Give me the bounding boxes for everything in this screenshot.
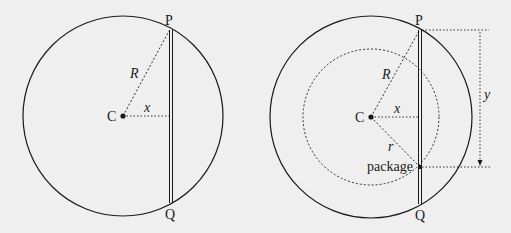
- arrow-down-icon: [478, 160, 483, 166]
- label-R: R: [129, 66, 139, 81]
- label-package: package: [367, 159, 413, 174]
- label-P: P: [165, 13, 173, 28]
- center-dot: [368, 114, 373, 119]
- label-C: C: [355, 110, 364, 125]
- label-r: r: [388, 139, 394, 154]
- label-Q: Q: [165, 207, 175, 222]
- diagram-canvas: P Q C R x P Q C R x r package y: [0, 0, 511, 233]
- left-figure: P Q C R x: [23, 13, 223, 222]
- label-y: y: [482, 87, 491, 102]
- label-Q: Q: [415, 208, 425, 223]
- label-C: C: [107, 109, 116, 124]
- label-x: x: [143, 100, 151, 115]
- label-R: R: [381, 67, 391, 82]
- package-marker: [418, 165, 422, 169]
- right-figure: P Q C R x r package y: [270, 13, 491, 223]
- label-P: P: [415, 13, 423, 28]
- center-dot: [120, 113, 125, 118]
- label-x: x: [393, 101, 401, 116]
